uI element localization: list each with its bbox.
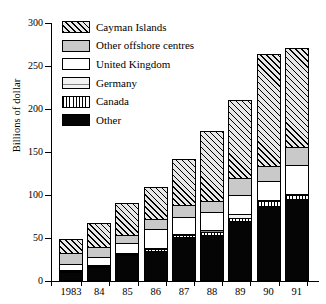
bar-segment-other-offshore-centres: [257, 166, 281, 182]
bar-84: [87, 223, 111, 281]
legend-swatch-offshore: [62, 40, 90, 52]
bar-segment-united-kingdom: [228, 195, 252, 215]
bar-segment-other: [257, 206, 281, 281]
y-axis-tick-label: 0: [3, 276, 43, 286]
legend-swatch-canada: [62, 96, 90, 108]
bar-88: [200, 131, 224, 281]
bar-segment-united-kingdom: [285, 165, 309, 195]
legend-label-canada: Canada: [96, 96, 129, 107]
bar-85: [115, 203, 139, 281]
bar-90: [257, 54, 281, 281]
y-axis-tick-label: 250: [3, 61, 43, 71]
legend-item-germany: Germany: [62, 74, 232, 93]
legend-swatch-cayman: [62, 21, 90, 33]
bar-87: [172, 159, 196, 281]
bar-segment-united-kingdom: [144, 229, 168, 250]
x-axis-label-91: 91: [277, 286, 317, 298]
legend-item-canada: Canada: [62, 92, 232, 111]
stacked-bar-chart: Billions of dollar 050100150200250300 19…: [0, 0, 326, 304]
bar-segment-united-kingdom: [172, 217, 196, 235]
chart-legend: Cayman IslandsOther offshore centresUnit…: [62, 18, 232, 130]
legend-item-uk: United Kingdom: [62, 55, 232, 74]
legend-swatch-germany: [62, 77, 90, 89]
bar-segment-cayman-islands: [144, 187, 168, 220]
legend-item-cayman: Cayman Islands: [62, 18, 232, 37]
legend-label-germany: Germany: [96, 78, 137, 89]
bar-1983: [59, 239, 83, 281]
bar-segment-other: [200, 235, 224, 281]
bar-segment-other-offshore-centres: [228, 178, 252, 196]
y-axis-tick-label: 300: [3, 18, 43, 28]
legend-label-other: Other: [96, 115, 121, 126]
bar-segment-cayman-islands: [285, 48, 309, 148]
y-axis-tick-label: 50: [3, 233, 43, 243]
legend-label-cayman: Cayman Islands: [96, 22, 167, 33]
bar-segment-cayman-islands: [257, 54, 281, 167]
y-axis-tick-label: 200: [3, 104, 43, 114]
legend-item-offshore: Other offshore centres: [62, 37, 232, 56]
bar-segment-other: [115, 255, 139, 281]
bar-segment-other: [172, 237, 196, 281]
bar-segment-other: [228, 221, 252, 281]
bar-segment-other: [87, 267, 111, 281]
bar-segment-united-kingdom: [257, 181, 281, 201]
bar-86: [144, 187, 168, 281]
legend-swatch-uk: [62, 58, 90, 70]
bar-segment-cayman-islands: [115, 203, 139, 236]
bar-segment-other: [59, 272, 83, 281]
bar-segment-other-offshore-centres: [285, 147, 309, 166]
legend-item-other: Other: [62, 111, 232, 130]
bar-segment-other: [285, 199, 309, 281]
legend-label-uk: United Kingdom: [96, 59, 170, 70]
bar-segment-cayman-islands: [200, 131, 224, 202]
bar-segment-cayman-islands: [172, 159, 196, 205]
bar-segment-cayman-islands: [59, 239, 83, 254]
bar-segment-other: [144, 251, 168, 281]
y-axis-tick-label: 150: [3, 147, 43, 157]
bar-segment-united-kingdom: [200, 212, 224, 231]
y-axis-tick-label: 100: [3, 190, 43, 200]
legend-swatch-other: [62, 114, 90, 126]
bar-segment-cayman-islands: [87, 223, 111, 248]
x-axis-tick: [51, 281, 52, 286]
bar-91: [285, 48, 309, 281]
legend-label-offshore: Other offshore centres: [96, 40, 194, 51]
